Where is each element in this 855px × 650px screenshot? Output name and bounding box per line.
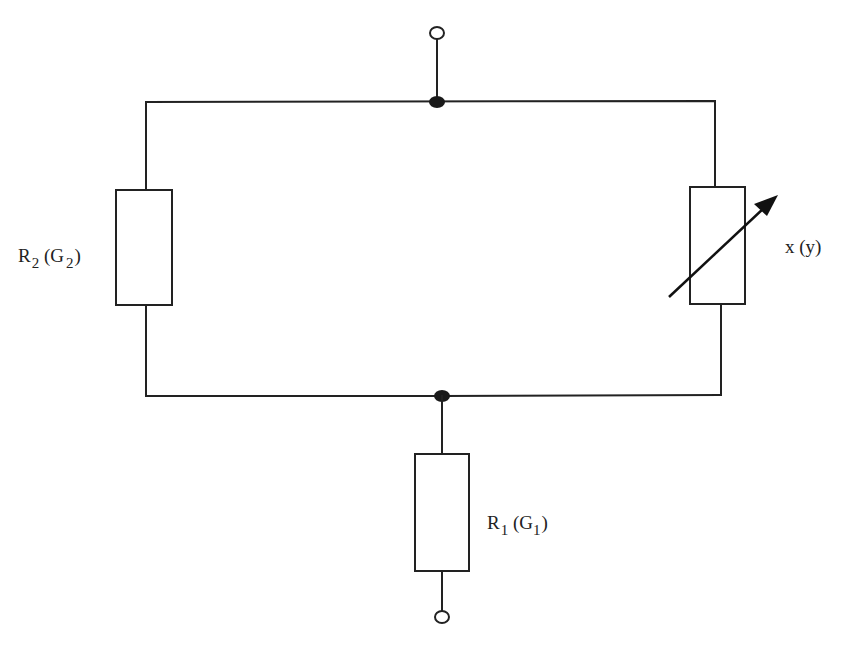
r1-resistor-group: R1 (G1)	[415, 396, 548, 611]
r1-resistor	[415, 454, 469, 571]
bottom-rail-wire	[146, 395, 721, 396]
top-rail-wire	[146, 101, 715, 190]
r2-resistor	[116, 190, 172, 305]
bottom-terminal	[435, 611, 449, 623]
x-variable-resistor-group: x (y)	[669, 187, 821, 395]
top-junction-dot	[429, 96, 445, 108]
circuit-diagram: R2 (G2) x (y) R1 (G1)	[0, 0, 855, 650]
top-terminal	[430, 27, 444, 39]
r2-resistor-group: R2 (G2)	[18, 190, 172, 396]
top-terminal-group	[430, 27, 444, 101]
x-variable-resistor	[690, 187, 745, 304]
r2-label: R2 (G2)	[18, 245, 81, 271]
x-label: x (y)	[785, 236, 821, 258]
r1-label: R1 (G1)	[487, 512, 548, 538]
